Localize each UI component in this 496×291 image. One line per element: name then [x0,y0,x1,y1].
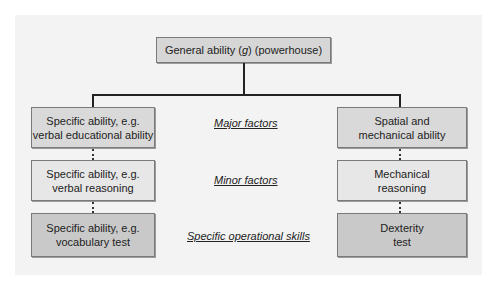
left-minor-node: Specific ability, e.g. verbal reasoning [31,160,155,201]
root-label-suffix: ) (powerhouse) [248,44,322,56]
left-operational-line1: Specific ability, e.g. [46,221,139,235]
root-node-label: General ability (g) (powerhouse) [165,43,322,57]
left-operational-node: Specific ability, e.g. vocabulary test [31,213,155,257]
level-label-minor-factors: Minor factors [214,174,278,186]
right-operational-node: Dexterity test [337,213,467,257]
left-minor-line1: Specific ability, e.g. [46,167,139,181]
left-major-node: Specific ability, e.g. verbal educationa… [31,107,155,148]
right-major-node: Spatial and mechanical ability [337,107,467,148]
right-vertical-connector [399,94,401,107]
right-operational-line2: test [380,235,423,249]
left-major-line1: Specific ability, e.g. [33,114,153,128]
right-major-line2: mechanical ability [359,128,446,142]
root-label-prefix: General ability ( [165,44,242,56]
left-major-line2: verbal educational ability [33,128,153,142]
left-vertical-connector [92,94,94,107]
left-minor-operational-dotted-connector [92,202,94,213]
right-operational-line1: Dexterity [380,221,423,235]
right-minor-node: Mechanical reasoning [337,160,467,201]
level-label-major-factors: Major factors [214,117,278,129]
right-minor-line2: reasoning [374,181,430,195]
horizontal-connector [92,94,401,96]
left-major-minor-dotted-connector [92,149,94,160]
right-minor-operational-dotted-connector [399,202,401,213]
left-operational-line2: vocabulary test [46,235,139,249]
level-label-operational-skills: Specific operational skills [187,230,310,242]
left-minor-line2: verbal reasoning [46,181,139,195]
root-vertical-connector [243,63,245,96]
right-major-minor-dotted-connector [399,149,401,160]
right-major-line1: Spatial and [359,114,446,128]
root-node-general-ability: General ability (g) (powerhouse) [156,37,331,63]
right-minor-line1: Mechanical [374,167,430,181]
